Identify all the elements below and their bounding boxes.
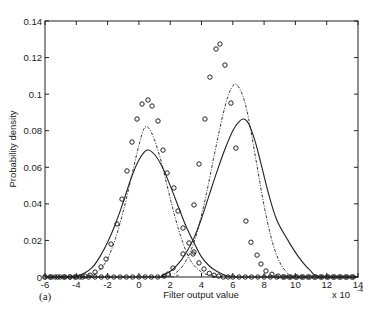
y-tick-label: 0.12	[24, 52, 43, 63]
y-tick-label: 0.08	[24, 125, 43, 136]
y-tick-label: 0.1	[29, 89, 42, 100]
probability-density-chart: -6-4-20246810121400.020.040.060.080.10.1…	[0, 0, 376, 318]
data-point	[223, 63, 227, 67]
data-point	[181, 226, 185, 230]
data-point	[214, 47, 218, 51]
axes-layer: -6-4-20246810121400.020.040.060.080.10.1…	[24, 16, 364, 291]
data-point	[135, 117, 139, 121]
data-point	[150, 104, 154, 108]
data-point	[130, 140, 134, 144]
data-point	[229, 101, 233, 105]
dashdot-density-curve	[45, 126, 358, 277]
data-point	[156, 119, 160, 123]
x-tick-label: -4	[72, 279, 80, 290]
data-point	[140, 102, 144, 106]
data-point	[197, 162, 201, 166]
solid-density-curve	[45, 119, 358, 277]
series-layer	[43, 42, 358, 279]
solid-density-curve	[45, 150, 358, 277]
svg-text:x 10: x 10	[332, 289, 350, 300]
data-point	[217, 274, 221, 278]
data-point	[161, 148, 165, 152]
data-point	[218, 42, 222, 46]
data-point	[146, 98, 150, 102]
data-point	[192, 203, 196, 207]
x-tick-label: 12	[321, 279, 332, 290]
data-point	[208, 75, 212, 79]
data-point	[259, 262, 263, 266]
x-axis-label: Filter output value	[163, 289, 239, 300]
data-point	[244, 219, 248, 223]
data-point	[234, 146, 238, 150]
data-point	[255, 253, 259, 257]
dashdot-density-curve	[45, 84, 358, 277]
circle-markers-series	[43, 42, 356, 279]
y-tick-label: 0.04	[24, 198, 43, 209]
data-point	[202, 267, 206, 271]
svg-text:-4: -4	[357, 286, 363, 293]
y-tick-label: 0.02	[24, 235, 43, 246]
data-point	[249, 240, 253, 244]
x-tick-label: 8	[261, 279, 266, 290]
panel-label: (a)	[39, 290, 52, 303]
y-tick-label: 0	[37, 272, 42, 283]
data-point	[197, 261, 201, 265]
data-point	[203, 117, 207, 121]
data-point	[125, 169, 129, 173]
x-tick-label: -2	[103, 279, 111, 290]
x-multiplier: x 10 -4	[332, 286, 363, 300]
y-tick-label: 0.06	[24, 162, 43, 173]
data-point	[264, 269, 268, 273]
x-tick-label: -6	[41, 279, 49, 290]
y-axis-label: Probability density	[7, 110, 18, 187]
x-tick-label: 0	[136, 279, 141, 290]
data-point	[172, 186, 176, 190]
y-tick-label: 0.14	[24, 16, 43, 27]
x-tick-label: 10	[290, 279, 301, 290]
axes-box	[45, 21, 358, 277]
